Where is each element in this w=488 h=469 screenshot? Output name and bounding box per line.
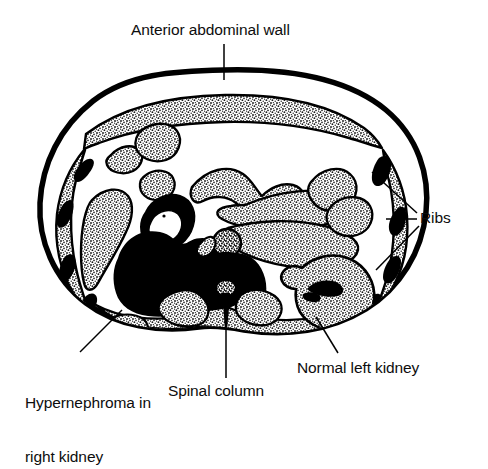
label-ribs: Ribs — [420, 209, 451, 227]
label-hypernephroma: Hypernephroma in right kidney — [25, 358, 151, 469]
label-spinal-column: Spinal column — [168, 382, 264, 400]
label-anterior-abdominal-wall: Anterior abdominal wall — [131, 21, 290, 39]
label-hypernephroma-line2: right kidney — [25, 448, 151, 466]
leader-hypernephroma — [80, 310, 122, 352]
label-normal-left-kidney: Normal left kidney — [297, 359, 419, 377]
label-hypernephroma-line1: Hypernephroma in — [25, 394, 151, 412]
